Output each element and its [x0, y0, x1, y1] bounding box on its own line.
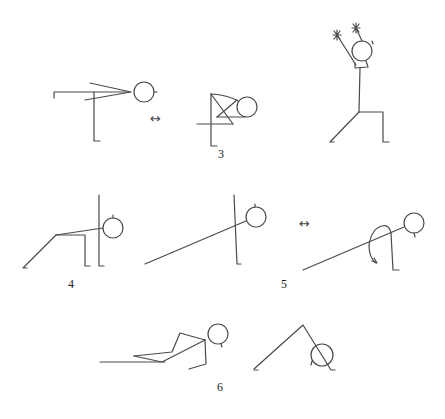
figure-reclined-twist: [100, 324, 228, 369]
alternate-arrow-row2: ↔: [299, 216, 310, 231]
figure-wall-support: [23, 195, 123, 268]
label-group-3: 3: [218, 147, 224, 162]
label-group-6: 6: [217, 380, 223, 395]
exercise-diagram: [0, 0, 445, 419]
figure-wall-lean: [145, 195, 266, 264]
figure-kneeling-lean: [303, 213, 424, 270]
label-group-4: 4: [68, 277, 74, 292]
figure-standing-extension: [54, 82, 157, 141]
alternate-arrow-row1: ↔: [150, 111, 161, 126]
figure-downward-fold: [254, 325, 335, 370]
label-group-5: 5: [281, 277, 287, 292]
figure-folded-balance: [197, 94, 257, 146]
figure-lunge-arms-raised: [330, 23, 389, 142]
